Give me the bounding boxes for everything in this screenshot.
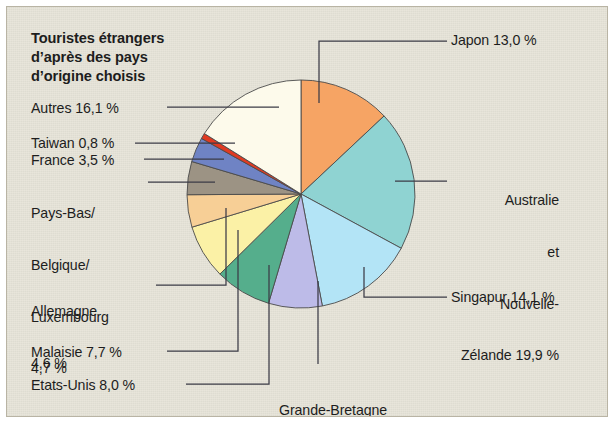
figure-root: Touristes étrangers d’après des pays d’o… bbox=[0, 0, 615, 443]
label-japon: Japon 13,0 % bbox=[451, 32, 537, 49]
chart-panel: Touristes étrangers d’après des pays d’o… bbox=[6, 6, 608, 417]
pie-slices bbox=[187, 80, 415, 308]
label-grande-bretagne: Grande-Bretagne et Irlande du Nord 7,6 % bbox=[279, 367, 391, 417]
label-grande-bretagne-line-1: Grande-Bretagne bbox=[279, 402, 391, 417]
label-etats-unis: Etats-Unis 8,0 % bbox=[31, 377, 135, 394]
label-singapur: Singapur 14,1 % bbox=[451, 289, 554, 306]
label-australie-line-2: et bbox=[411, 244, 559, 261]
label-allemagne-line-1: Allemagne bbox=[31, 303, 97, 320]
label-malaisie: Malaisie 7,7 % bbox=[31, 344, 122, 361]
label-australie-line-1: Australie bbox=[411, 192, 559, 209]
label-taiwan: Taiwan 0,8 % bbox=[31, 135, 114, 152]
label-pays-bas-line-1: Pays-Bas/ bbox=[31, 205, 109, 222]
label-autres: Autres 16,1 % bbox=[31, 100, 119, 117]
label-australie: Australie et Nouvelle- Zélande 19,9 % bbox=[411, 157, 559, 399]
label-australie-line-4: Zélande 19,9 % bbox=[411, 347, 559, 364]
label-france: France 3,5 % bbox=[31, 152, 114, 169]
